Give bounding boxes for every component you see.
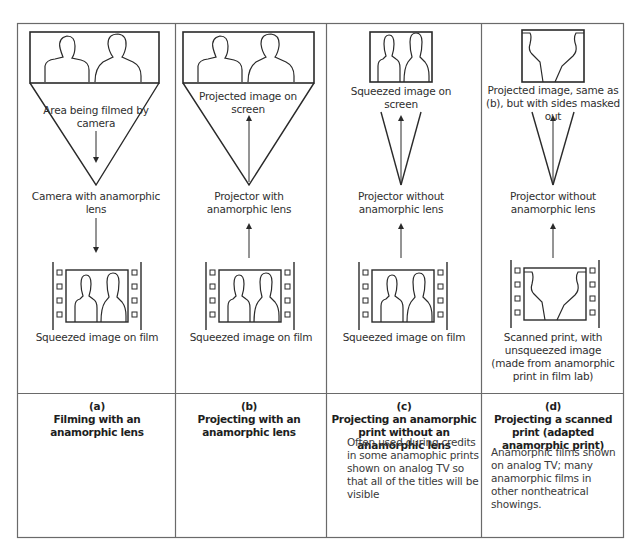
caption-d: (d) Projecting a scanned print (adapted …: [484, 400, 622, 452]
projection-screen: [370, 32, 432, 82]
view-cone: [30, 83, 159, 185]
film-strip-icon: [359, 262, 447, 330]
label-projector-no-lens: Projector without anamorphic lens: [340, 190, 462, 216]
label-projected-image: Projected image on screen: [198, 90, 298, 116]
column-d-illustration: [511, 30, 599, 328]
label-masked-image: Projected image, same as (b), but with s…: [484, 84, 622, 123]
column-a-illustration: [30, 32, 159, 330]
label-projector-no-lens: Projector without anamorphic lens: [492, 190, 614, 216]
column-c-illustration: [359, 32, 447, 330]
label-scanned-print: Scanned print, with unsqueezed image (ma…: [490, 331, 616, 383]
column-b-illustration: [183, 32, 314, 330]
two-figures-icon: [198, 34, 294, 82]
description-c: Often used during credits in some anamop…: [347, 436, 479, 501]
label-camera-lens: Camera with anamorphic lens: [30, 190, 162, 216]
label-squeezed-film: Squeezed image on film: [22, 331, 172, 344]
label-squeezed-screen: Squeezed image on screen: [350, 85, 452, 111]
two-figures-icon: [45, 34, 141, 82]
film-strip-icon: [206, 262, 294, 330]
film-strip-icon: [511, 260, 599, 328]
caption-b: (b) Projecting with an anamorphic lens: [186, 400, 312, 439]
caption-letter: (c): [328, 400, 480, 413]
camera-field-screen: [30, 32, 159, 83]
cropped-figure-right: [555, 33, 584, 82]
caption-title: Filming with an anamorphic lens: [50, 413, 143, 438]
film-strip-icon: [53, 262, 141, 330]
label-area-filmed: Area being filmed by camera: [40, 104, 152, 130]
description-d: Anamorphic films shown on analog TV; man…: [491, 446, 619, 511]
label-projector-lens: Projector with anamorphic lens: [183, 190, 315, 216]
caption-letter: (d): [484, 400, 622, 413]
caption-a: (a) Filming with an anamorphic lens: [22, 400, 172, 439]
caption-letter: (a): [22, 400, 172, 413]
caption-title: Projecting with an anamorphic lens: [198, 413, 301, 438]
caption-letter: (b): [186, 400, 312, 413]
label-squeezed-film: Squeezed image on film: [178, 331, 324, 344]
cropped-figure-left: [522, 33, 543, 82]
label-squeezed-film: Squeezed image on film: [330, 331, 478, 344]
two-figures-icon: [378, 33, 429, 82]
